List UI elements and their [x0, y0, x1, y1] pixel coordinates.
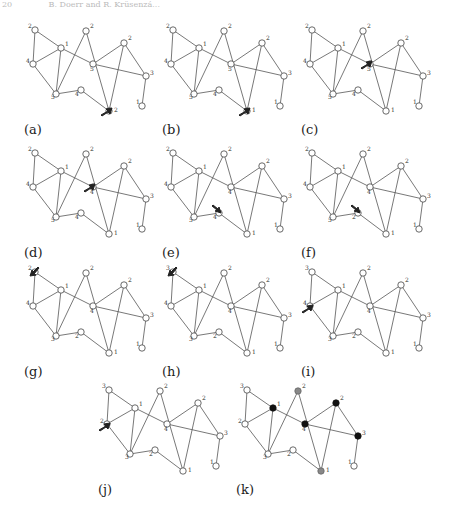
- vertex-label: 1: [136, 98, 140, 105]
- edge: [33, 272, 35, 306]
- vertex-label: 2: [100, 417, 104, 424]
- panel-label: (j): [98, 482, 112, 497]
- vertex-label: 2: [352, 213, 356, 220]
- edge: [419, 76, 423, 106]
- edge: [262, 285, 284, 318]
- vertex-tl: [309, 150, 315, 156]
- vertex-label: 2: [352, 332, 356, 339]
- vertex-n1: [58, 45, 64, 51]
- vertex-tl: [32, 27, 38, 33]
- vertex-label: 3: [125, 453, 129, 460]
- edge: [231, 166, 262, 187]
- vertex-label: 1: [114, 229, 118, 236]
- pointer-arrow-icon: [351, 205, 360, 213]
- vertex-label: 2: [305, 145, 309, 152]
- vertex-r3: [217, 433, 223, 439]
- edge: [370, 43, 401, 64]
- panel-label: (b): [162, 122, 180, 137]
- pointer-arrow-icon: [239, 108, 250, 116]
- edge: [171, 290, 199, 306]
- vertex-tl: [32, 150, 38, 156]
- vertex-label: 1: [413, 221, 417, 228]
- vertex-r3: [281, 73, 287, 79]
- vertex-label: 3: [189, 335, 193, 342]
- vertex-top: [295, 388, 301, 394]
- vertex-label: 2: [202, 394, 206, 401]
- vertex-label: 5: [189, 93, 193, 100]
- vertex-label: 2: [266, 34, 270, 41]
- vertex-n1: [196, 45, 202, 51]
- edge: [219, 213, 247, 234]
- vertex-label: 2: [166, 145, 170, 152]
- vertex-label: 4: [367, 307, 371, 314]
- panel-e: 21424235411(e): [162, 145, 292, 260]
- edge: [280, 318, 284, 348]
- vertex-bot: [383, 350, 389, 356]
- vertex-top: [157, 388, 163, 394]
- vertex-label: 5: [228, 65, 232, 72]
- vertex-bot: [383, 108, 389, 114]
- vertex-label: 5: [51, 216, 55, 223]
- edge: [109, 166, 124, 234]
- vertex-label: 2: [114, 106, 118, 113]
- vertex-label: 4: [164, 57, 168, 64]
- edge: [171, 153, 173, 187]
- edge: [109, 390, 135, 408]
- panel-label: (a): [24, 122, 42, 137]
- vertex-r3: [355, 433, 361, 439]
- vertex-bot: [106, 231, 112, 237]
- vertex-label: 2: [228, 264, 232, 271]
- panel-label: (c): [301, 122, 318, 137]
- edge: [336, 403, 358, 436]
- vertex-n1: [335, 287, 341, 293]
- edge: [262, 166, 284, 199]
- edge: [231, 64, 284, 76]
- vertex-label: 4: [302, 425, 306, 432]
- edge: [401, 43, 423, 76]
- vertex-bot: [318, 468, 324, 474]
- edge: [245, 408, 273, 424]
- edge: [93, 306, 146, 318]
- vertex-l4: [168, 303, 174, 309]
- edge: [401, 166, 423, 199]
- vertex-top: [221, 28, 227, 34]
- vertex-label: 5: [90, 65, 94, 72]
- vertex-label: 2: [340, 394, 344, 401]
- edge: [33, 187, 56, 217]
- vertex-label: 1: [252, 348, 256, 355]
- edge: [35, 153, 61, 171]
- vertex-rt: [259, 282, 265, 288]
- edge: [171, 306, 194, 336]
- edge: [107, 408, 135, 424]
- vertex-tl: [170, 27, 176, 33]
- vertex-rt: [398, 40, 404, 46]
- vertex-label: 4: [164, 425, 168, 432]
- vertex-label: 1: [136, 340, 140, 347]
- edge: [219, 332, 247, 353]
- edge: [386, 166, 401, 234]
- edge: [171, 30, 173, 64]
- edge: [386, 43, 401, 111]
- edge: [171, 48, 199, 64]
- edge: [268, 391, 298, 454]
- edge: [33, 153, 35, 187]
- edge: [109, 43, 124, 111]
- vertex-r3: [420, 315, 426, 321]
- vertex-label: 1: [326, 466, 330, 473]
- vertex-label: 3: [166, 264, 170, 271]
- vertex-label: 3: [305, 264, 309, 271]
- vertex-l4: [242, 421, 248, 427]
- vertex-label: 1: [203, 163, 207, 170]
- vertex-n1: [196, 168, 202, 174]
- vertex-l4: [168, 61, 174, 67]
- edge: [167, 403, 198, 424]
- edge: [280, 76, 284, 106]
- vertex-label: 2: [90, 145, 94, 152]
- pointer-arrow-icon: [101, 108, 112, 116]
- edge: [310, 272, 312, 306]
- vertex-bot: [106, 350, 112, 356]
- vertex-label: 2: [305, 22, 309, 29]
- vertex-label: 2: [164, 382, 168, 389]
- edge: [419, 199, 423, 229]
- panel-a: 21425235421(a): [24, 22, 154, 137]
